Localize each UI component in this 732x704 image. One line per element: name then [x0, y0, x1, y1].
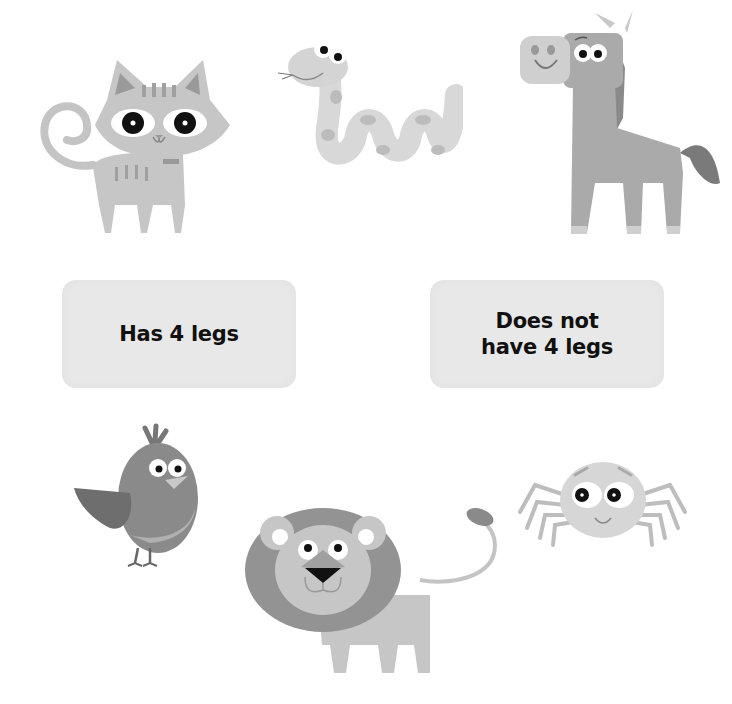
spider-body: [560, 462, 646, 538]
horse-image[interactable]: [515, 8, 725, 240]
horse-tail: [680, 145, 720, 184]
bird-wing: [74, 488, 131, 529]
sort-box-has-4-legs[interactable]: Has 4 legs: [62, 280, 296, 388]
sort-box-label: Does not have 4 legs: [481, 308, 613, 360]
lion-tail-tuft: [464, 505, 496, 529]
snake-body: [327, 80, 456, 154]
horse-muzzle: [520, 36, 570, 84]
sort-box-label: Has 4 legs: [119, 321, 238, 347]
sort-box-not-4-legs[interactable]: Does not have 4 legs: [430, 280, 664, 388]
cat-head: [95, 60, 230, 157]
lion-image[interactable]: [240, 505, 505, 675]
snake-image[interactable]: [268, 35, 463, 170]
cat-tail: [44, 106, 93, 166]
cat-body: [93, 153, 185, 233]
horse-head: [563, 33, 623, 88]
horse-body: [571, 83, 683, 233]
cat-image[interactable]: [35, 55, 235, 240]
spider-image[interactable]: [515, 450, 690, 550]
bird-image[interactable]: [70, 423, 205, 568]
